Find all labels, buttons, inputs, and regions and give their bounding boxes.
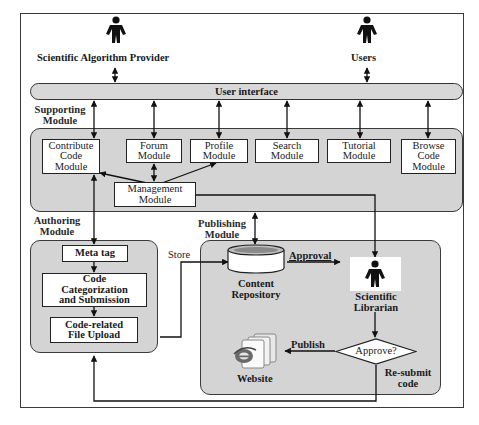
authoring-label-line1: Authoring: [27, 215, 87, 226]
contribute-line3: Module: [55, 162, 88, 173]
file-upload-step: Code-related File Upload: [50, 317, 138, 343]
management-line1: Management: [128, 184, 183, 195]
categorization-line3: and Submission: [59, 295, 130, 306]
authoring-module-label: Authoring Module: [27, 215, 87, 237]
approve-decision-label: Approve?: [345, 345, 407, 356]
users-label: Users: [351, 52, 376, 63]
code-categorization-step: Code Categorization and Submission: [42, 273, 147, 307]
search-module: Search Module: [255, 139, 319, 163]
publishing-label-line1: Publishing: [190, 218, 254, 229]
user-interface-bar: User interface: [30, 83, 463, 100]
profile-line2: Module: [203, 151, 236, 162]
resubmit-line2: code: [378, 378, 438, 389]
website-label: Website: [237, 373, 273, 384]
meta-tag-step: Meta tag: [62, 245, 128, 262]
publish-label: Publish: [291, 339, 325, 350]
upload-line2: File Upload: [68, 330, 120, 341]
librarian-line2: Librarian: [343, 302, 409, 313]
librarian-actor-icon: [363, 260, 387, 288]
approval-label: Approval: [289, 250, 331, 261]
forum-module: Forum Module: [126, 139, 182, 163]
users-actor-icon: [355, 16, 379, 44]
publishing-label-line2: Module: [190, 229, 254, 240]
content-repository-icon: [226, 244, 286, 274]
resubmit-line1: Re-submit: [378, 367, 438, 378]
provider-label: Scientific Algorithm Provider: [37, 52, 169, 63]
website-icon: [232, 332, 284, 370]
librarian-label: Scientific Librarian: [343, 291, 409, 313]
browse-line3: Module: [412, 162, 445, 173]
supporting-label-line1: Supporting: [27, 104, 93, 115]
meta-tag-text: Meta tag: [75, 248, 115, 259]
forum-line2: Module: [138, 151, 171, 162]
provider-actor-icon: [104, 16, 128, 44]
repository-line2: Repository: [222, 289, 290, 300]
profile-module: Profile Module: [190, 139, 248, 163]
management-line2: Module: [139, 195, 172, 206]
store-label: Store: [168, 249, 190, 260]
publishing-module-label: Publishing Module: [190, 218, 254, 240]
supporting-module-label: Supporting Module: [27, 104, 93, 126]
authoring-label-line2: Module: [27, 226, 87, 237]
repository-line1: Content: [222, 278, 290, 289]
supporting-label-line2: Module: [27, 115, 93, 126]
browse-code-module: Browse Code Module: [401, 139, 456, 174]
management-module: Management Module: [114, 182, 196, 207]
tutorial-line2: Module: [343, 151, 376, 162]
tutorial-module: Tutorial Module: [327, 139, 391, 163]
resubmit-label: Re-submit code: [378, 367, 438, 389]
librarian-line1: Scientific: [343, 291, 409, 302]
search-line2: Module: [271, 151, 304, 162]
contribute-code-module: Contribute Code Module: [42, 139, 100, 174]
content-repository-label: Content Repository: [222, 278, 290, 300]
